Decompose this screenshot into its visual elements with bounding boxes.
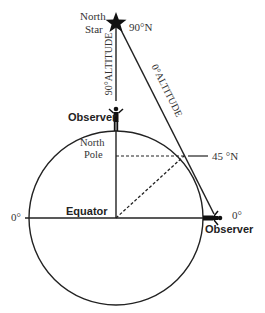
- slanted-altitude-label: 0°ALTITUDE: [149, 62, 185, 118]
- north-star-label-line2: Star: [85, 23, 103, 35]
- horizon-sightline: [118, 24, 214, 214]
- left-degree-label: 0°: [11, 211, 21, 223]
- radius-45-dashed: [116, 156, 184, 218]
- north-star-altitude-diagram: North Star 90°N 90°ALTITUDE 0°ALTITUDE O…: [0, 0, 265, 313]
- vertical-altitude-label: 90°ALTITUDE: [103, 33, 114, 96]
- north-pole-label-line2: Pole: [84, 149, 103, 160]
- north-star-label-line1: North: [80, 10, 106, 22]
- north-pole-label-line1: North: [80, 137, 105, 148]
- top-observer-label: Observer: [68, 111, 117, 123]
- equator-label: Equator: [66, 205, 108, 217]
- side-observer-label: Observer: [205, 223, 254, 235]
- latitude-45-label: 45 °N: [212, 150, 238, 162]
- star-latitude-label: 90°N: [129, 21, 152, 33]
- right-degree-label: 0°: [232, 209, 242, 221]
